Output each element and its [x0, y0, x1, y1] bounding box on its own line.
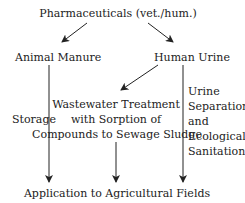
edge-label-urine-line2: Separation [188, 99, 245, 114]
edge-label-urine-line5: Sanitation [188, 144, 245, 159]
node-agricultural-fields: Application to Agricultural Fields [24, 186, 210, 201]
arrow-source-to-urine [148, 23, 173, 42]
arrow-source-to-manure [62, 23, 87, 42]
edge-label-urine-line4: Ecological [188, 129, 245, 144]
edge-label-storage: Storage [12, 112, 56, 127]
edge-label-urine-line3: and [188, 114, 209, 129]
node-wastewater-line2: with Sorption of [71, 112, 161, 127]
edge-label-urine-line1: Urine [188, 84, 220, 99]
node-human-urine: Human Urine [154, 50, 230, 65]
node-pharmaceuticals: Pharmaceuticals (vet./hum.) [39, 6, 196, 21]
arrow-urine-to-wastewater [121, 65, 158, 90]
node-animal-manure: Animal Manure [15, 50, 101, 65]
node-wastewater-line1: Wastewater Treatment [52, 97, 180, 112]
node-wastewater-line3: Compounds to Sewage Sludge [32, 127, 202, 142]
